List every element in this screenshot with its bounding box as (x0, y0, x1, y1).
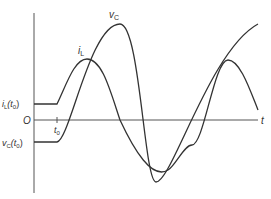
iL-label: iL (78, 45, 84, 57)
origin-label: O (23, 115, 31, 126)
vC-initial-label: vC(t0) (2, 138, 23, 149)
iL-curve-continued (192, 60, 258, 145)
waveform-svg: vC iL iL(t0) O vC(t0) t0 t (0, 0, 271, 199)
vC-curve (34, 24, 258, 182)
waveform-diagram: vC iL iL(t0) O vC(t0) t0 t (0, 0, 271, 199)
iL-initial-label: iL(t0) (2, 99, 19, 110)
vC-label: vC (109, 9, 119, 21)
iL-curve (34, 59, 192, 172)
t0-label: t0 (54, 125, 61, 136)
time-axis-label: t (261, 115, 265, 126)
